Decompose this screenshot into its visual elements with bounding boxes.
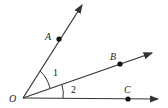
label-b: B: [110, 51, 116, 62]
label-angle-1: 1: [53, 67, 58, 78]
angle-1-arc: [40, 71, 50, 88]
point-c-dot: [125, 96, 130, 101]
angle-diagram: A B C O 1 2: [0, 0, 168, 108]
ray-ob: [23, 53, 152, 98]
point-a-dot: [56, 36, 61, 41]
label-a: A: [44, 31, 52, 42]
label-c: C: [124, 84, 131, 95]
point-b-dot: [117, 61, 122, 66]
label-o: O: [9, 93, 16, 104]
ray-oc: [23, 98, 158, 99]
angle-2-arc: [62, 85, 63, 98]
label-angle-2: 2: [71, 84, 76, 95]
